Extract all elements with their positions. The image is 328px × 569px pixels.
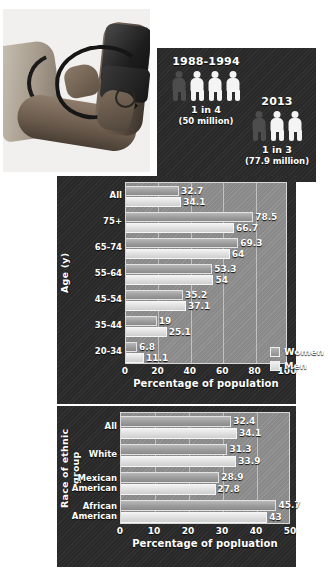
photo-pressure-gauge [115, 87, 136, 108]
x-axis-tick-label: 40 [250, 526, 263, 536]
chart-category-row: 35-441925.1 [126, 313, 286, 339]
person-icon [270, 111, 285, 141]
bar-women: 69.3 [126, 238, 238, 248]
category-label: White [57, 450, 117, 460]
bar-value-label: 25.1 [169, 327, 191, 337]
stat-count: (77.9 million) [243, 156, 311, 167]
stat-group-1988-1994: 1988-1994 1 in 4 (50 million) [163, 55, 249, 127]
bar-women: 35.2 [126, 290, 183, 300]
category-label: 75+ [62, 217, 122, 227]
person-icon-affected [172, 71, 187, 101]
person-icon-row [243, 111, 311, 141]
chart-category-row: All32.434.1 [121, 413, 289, 441]
bar-value-label: 33.9 [238, 456, 260, 466]
bar-women: 53.3 [126, 264, 212, 274]
bar-value-label: 54 [215, 275, 228, 285]
category-label: All [57, 422, 117, 432]
x-axis-tick-label: 20 [182, 526, 195, 536]
bar-men: 33.9 [121, 456, 236, 467]
bar-men: 37.1 [126, 301, 186, 311]
bar-women: 78.5 [126, 212, 253, 222]
race-chart-panel: Race of ethnic group All32.434.1White31.… [57, 406, 296, 567]
prevalence-stat-panel: 1988-1994 1 in 4 (50 million) 2013 1 in … [157, 48, 316, 182]
category-label: African American [57, 502, 117, 521]
blood-pressure-photo [3, 9, 150, 172]
person-icon [190, 71, 205, 101]
x-axis-tick-label: 80 [248, 366, 261, 376]
stat-year-label: 1988-1994 [163, 55, 249, 68]
category-label: 20-34 [62, 347, 122, 357]
stat-ratio: 1 in 3 [243, 144, 311, 156]
bar-value-label: 37.1 [188, 301, 210, 311]
legend-swatch-women [270, 347, 280, 357]
race-chart-x-axis-label: Percentage of popluation [120, 538, 290, 549]
x-axis-tick-label: 60 [216, 366, 229, 376]
person-icon [288, 111, 303, 141]
bar-value-label: 34.1 [239, 428, 261, 438]
category-label: Mexican American [57, 474, 117, 493]
x-axis-tick-label: 10 [148, 526, 161, 536]
bar-women: 28.9 [121, 472, 219, 483]
chart-category-row: African American45.743 [121, 497, 289, 525]
age-chart-legend: Women Men [270, 346, 324, 374]
bar-value-label: 35.2 [185, 290, 207, 300]
stat-year-label: 2013 [243, 95, 311, 108]
age-chart-panel: Age (y) All32.734.175+78.566.765-7469.36… [57, 176, 296, 404]
photo-image [3, 9, 150, 172]
stat-group-2013: 2013 1 in 3 (77.9 million) [243, 95, 311, 167]
bar-women: 32.7 [126, 186, 179, 196]
bar-value-label: 69.3 [240, 238, 262, 248]
bar-value-label: 53.3 [214, 264, 236, 274]
bar-value-label: 43 [269, 512, 282, 522]
age-chart-x-axis-label: Percentage of population [125, 378, 287, 389]
x-axis-tick-label: 0 [122, 366, 128, 376]
chart-category-row: Mexican American28.927.8 [121, 469, 289, 497]
age-chart-x-axis: 020406080100 [125, 364, 287, 378]
bar-women: 32.4 [121, 416, 231, 427]
bar-women: 6.8 [126, 342, 137, 352]
x-axis-tick-label: 40 [184, 366, 197, 376]
bar-men: 34.1 [126, 197, 181, 207]
bar-value-label: 78.5 [255, 212, 277, 222]
bar-men: 64 [126, 249, 230, 259]
age-chart-plot-area: All32.734.175+78.566.765-7469.36455-6453… [125, 182, 287, 364]
chart-category-row: 55-6453.354 [126, 261, 286, 287]
legend-label-women: Women [284, 346, 324, 357]
bar-men: 34.1 [121, 428, 237, 439]
bar-women: 45.7 [121, 500, 276, 511]
bar-men: 27.8 [121, 484, 216, 495]
bar-value-label: 32.4 [233, 416, 255, 426]
legend-item-men: Men [270, 360, 324, 371]
bar-value-label: 28.9 [221, 472, 243, 482]
bar-women: 19 [126, 316, 157, 326]
bar-value-label: 31.3 [229, 444, 251, 454]
x-axis-tick-label: 0 [117, 526, 123, 536]
chart-category-row: White31.333.9 [121, 441, 289, 469]
race-chart-plot-area: All32.434.1White31.333.9Mexican American… [120, 412, 290, 524]
person-icon-row [163, 71, 249, 101]
bar-women: 31.3 [121, 444, 227, 455]
chart-category-row: All32.734.1 [126, 183, 286, 209]
chart-category-row: 65-7469.364 [126, 235, 286, 261]
bar-value-label: 27.8 [218, 484, 240, 494]
x-axis-tick-label: 30 [216, 526, 229, 536]
bar-value-label: 45.7 [278, 500, 300, 510]
bar-men: 54 [126, 275, 213, 285]
category-label: 65-74 [62, 243, 122, 253]
bar-value-label: 11.1 [146, 353, 168, 363]
bar-men: 11.1 [126, 353, 144, 363]
bar-men: 25.1 [126, 327, 167, 337]
bar-value-label: 34.1 [183, 197, 205, 207]
bar-value-label: 19 [159, 316, 172, 326]
bar-men: 43 [121, 512, 267, 523]
category-label: All [62, 191, 122, 201]
x-axis-tick-label: 20 [151, 366, 164, 376]
legend-swatch-men [270, 361, 280, 371]
bar-value-label: 32.7 [181, 186, 203, 196]
category-label: 45-54 [62, 295, 122, 305]
race-chart-x-axis: 01020304050 [120, 524, 290, 538]
stat-ratio: 1 in 4 [163, 104, 249, 116]
person-icon [226, 71, 241, 101]
bar-value-label: 6.8 [139, 342, 155, 352]
chart-category-row: 75+78.566.7 [126, 209, 286, 235]
